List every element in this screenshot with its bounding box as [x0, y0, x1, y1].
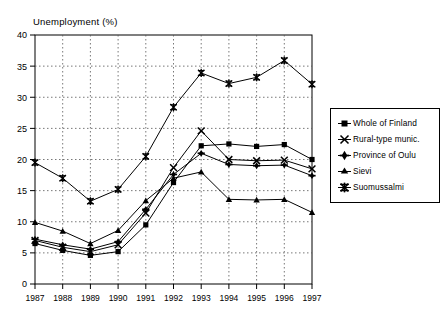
legend-label: Province of Oulu: [353, 150, 416, 160]
x-cross-icon: [337, 132, 352, 147]
series-line-2: [31, 150, 315, 253]
svg-text:30: 30: [17, 93, 27, 103]
legend-item-rural-type-munic[interactable]: Rural-type munic.: [337, 131, 435, 147]
legend-label: Rural-type munic.: [353, 134, 420, 144]
svg-text:1993: 1993: [192, 293, 211, 303]
svg-text:10: 10: [17, 217, 27, 227]
svg-text:1990: 1990: [109, 293, 128, 303]
svg-text:40: 40: [17, 30, 27, 40]
plus-diamond-icon: [337, 148, 352, 163]
legend-label: Suomussalmi: [353, 182, 404, 192]
chart-container: Unemployment (%) 05101520253035401987198…: [0, 0, 330, 319]
legend-item-whole-of-finland[interactable]: Whole of Finland: [337, 115, 435, 131]
svg-text:35: 35: [17, 62, 27, 72]
svg-text:25: 25: [17, 124, 27, 134]
svg-text:1991: 1991: [136, 293, 155, 303]
star-bar-icon: [337, 180, 352, 195]
svg-text:15: 15: [17, 186, 27, 196]
svg-text:0: 0: [22, 279, 27, 289]
legend-label: Whole of Finland: [353, 118, 417, 128]
svg-text:5: 5: [22, 248, 27, 258]
legend-item-suomussalmi[interactable]: Suomussalmi: [337, 179, 435, 195]
svg-text:1989: 1989: [81, 293, 100, 303]
svg-text:20: 20: [17, 155, 27, 165]
filled-triangle-icon: [337, 164, 352, 179]
legend-item-province-of-oulu[interactable]: Province of Oulu: [337, 147, 435, 163]
svg-text:1988: 1988: [53, 293, 72, 303]
line-chart-plot: 0510152025303540198719881989199019911992…: [0, 0, 330, 319]
svg-text:1992: 1992: [164, 293, 183, 303]
svg-text:1995: 1995: [247, 293, 266, 303]
filled-square-icon: [337, 116, 352, 131]
legend-item-sievi[interactable]: Sievi: [337, 163, 435, 179]
legend-label: Sievi: [353, 166, 371, 176]
svg-text:1996: 1996: [275, 293, 294, 303]
chart-legend: Whole of Finland Rural-type munic. P: [330, 108, 440, 203]
svg-text:1994: 1994: [219, 293, 238, 303]
chart-page: Unemployment (%) 05101520253035401987198…: [0, 0, 447, 319]
svg-text:1997: 1997: [303, 293, 322, 303]
svg-text:1987: 1987: [26, 293, 45, 303]
